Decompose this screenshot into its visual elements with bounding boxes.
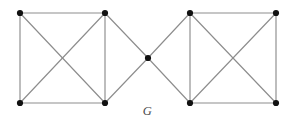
graph-caption-label: G	[0, 104, 295, 118]
vertex-e	[145, 55, 151, 61]
vertex-a	[17, 10, 23, 16]
edge-e-h	[148, 58, 190, 103]
edge-d-e	[105, 58, 148, 103]
vertex-g	[273, 10, 279, 16]
graph-figure: G	[0, 0, 295, 125]
edge-e-f	[148, 13, 190, 58]
vertex-b	[102, 10, 108, 16]
vertex-group	[17, 10, 279, 106]
vertex-f	[187, 10, 193, 16]
edge-b-e	[105, 13, 148, 58]
